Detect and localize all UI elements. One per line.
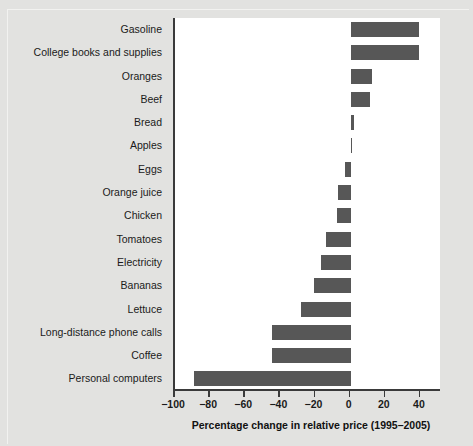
category-label: Long-distance phone calls — [0, 321, 168, 344]
category-label: Chicken — [0, 204, 168, 227]
category-label: Gasoline — [0, 18, 168, 41]
bar-row — [175, 204, 440, 227]
x-tick-label: −40 — [269, 398, 287, 410]
bar-row — [175, 65, 440, 88]
x-tick-label: −20 — [305, 398, 323, 410]
x-tick — [419, 391, 421, 397]
bar-row — [175, 228, 440, 251]
category-label: Eggs — [0, 158, 168, 181]
bar — [321, 255, 351, 270]
category-label: Bread — [0, 111, 168, 134]
bar-row — [175, 158, 440, 181]
bar-series — [175, 18, 440, 389]
bar-row — [175, 367, 440, 390]
bar-row — [175, 41, 440, 64]
bar — [338, 185, 350, 200]
category-label: Coffee — [0, 344, 168, 367]
x-tick-label: 0 — [346, 398, 352, 410]
category-label: Oranges — [0, 65, 168, 88]
x-axis-ticks — [173, 391, 440, 398]
bar — [194, 371, 350, 386]
bar — [351, 138, 352, 153]
x-axis-tick-labels: −100−80−60−40−2002040 — [173, 398, 440, 412]
category-label: Beef — [0, 88, 168, 111]
category-label: Lettuce — [0, 298, 168, 321]
bar-row — [175, 274, 440, 297]
bar-row — [175, 344, 440, 367]
x-tick — [278, 391, 280, 397]
bar-row — [175, 321, 440, 344]
bar-row — [175, 111, 440, 134]
category-label: College books and supplies — [0, 41, 168, 64]
category-axis-labels: GasolineCollege books and suppliesOrange… — [0, 18, 168, 391]
x-tick — [384, 391, 386, 397]
x-tick-label: −100 — [161, 398, 185, 410]
bar — [314, 278, 351, 293]
x-tick-label: 20 — [378, 398, 390, 410]
bar — [351, 22, 420, 37]
category-label: Personal computers — [0, 367, 168, 390]
x-tick — [173, 391, 175, 397]
bar-row — [175, 298, 440, 321]
bar — [272, 325, 351, 340]
bar-row — [175, 134, 440, 157]
bar — [351, 115, 355, 130]
bar — [326, 232, 351, 247]
x-tick-label: −80 — [199, 398, 217, 410]
x-tick — [243, 391, 245, 397]
category-label: Electricity — [0, 251, 168, 274]
bar — [351, 92, 370, 107]
bar-row — [175, 88, 440, 111]
bar — [345, 162, 350, 177]
category-label: Apples — [0, 134, 168, 157]
plot-area — [173, 18, 440, 391]
x-tick — [314, 391, 316, 397]
bar-row — [175, 251, 440, 274]
category-label: Bananas — [0, 274, 168, 297]
bar — [337, 208, 351, 223]
bar-row — [175, 181, 440, 204]
x-axis-title: Percentage change in relative price (199… — [173, 419, 449, 431]
x-tick-label: 40 — [413, 398, 425, 410]
x-tick-label: −60 — [234, 398, 252, 410]
chart-figure: GasolineCollege books and suppliesOrange… — [0, 0, 473, 446]
bar — [272, 348, 351, 363]
bar — [351, 69, 372, 84]
category-label: Orange juice — [0, 181, 168, 204]
x-tick — [208, 391, 210, 397]
bar-row — [175, 18, 440, 41]
x-tick — [349, 391, 351, 397]
bar — [301, 302, 350, 317]
bar — [351, 45, 420, 60]
category-label: Tomatoes — [0, 228, 168, 251]
